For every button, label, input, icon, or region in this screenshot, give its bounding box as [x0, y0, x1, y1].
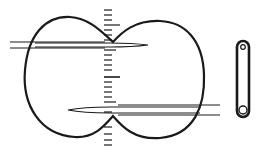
- link-bar-bottom-hole: [239, 106, 247, 114]
- link-bar: [237, 41, 249, 117]
- link-bar-top-hole: [241, 45, 246, 50]
- diagram-canvas: [0, 0, 261, 153]
- lower-needle: [68, 105, 220, 115]
